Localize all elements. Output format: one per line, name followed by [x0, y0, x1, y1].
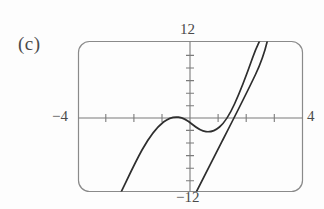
plot-area	[0, 0, 324, 209]
graph-contents	[60, 36, 320, 192]
graph-svg	[0, 0, 324, 209]
figure-root: (c) 12 −12 −4 4	[0, 0, 324, 209]
curve-secondary	[196, 36, 268, 192]
